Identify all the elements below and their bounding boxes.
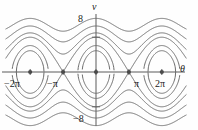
x-tick-label-pi: π [134,79,139,89]
x-tick-label-minus-pi: −π [47,79,58,89]
y-tick-label-8: 8 [78,14,83,24]
y-axis-label: v [92,2,96,12]
y-tick-label-minus-8: −8 [73,114,84,124]
x-tick-label-minus-2pi: −2π [4,79,20,89]
x-axis-label: θ [180,64,185,74]
phase-portrait-figure: v θ 8 −8 −2π −π π 2π [0,0,198,130]
x-tick-label-2pi: 2π [155,79,165,89]
phase-plane-plot [0,0,198,130]
